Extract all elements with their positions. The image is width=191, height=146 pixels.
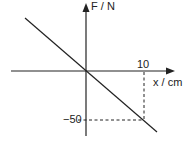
x-axis-arrow-icon <box>166 68 175 75</box>
x-tick-label: 10 <box>137 58 149 70</box>
y-axis-label: F / N <box>91 0 115 12</box>
force-extension-graph <box>0 0 191 146</box>
x-axis-label: x / cm <box>153 76 182 88</box>
data-line <box>25 18 157 132</box>
y-tick-label: −50 <box>63 113 82 125</box>
y-axis-arrow-icon <box>83 3 90 12</box>
